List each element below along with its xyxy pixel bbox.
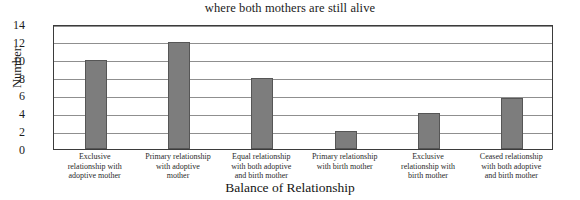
chart-figure: where both mothers are still alive Numbe…	[0, 0, 580, 200]
bar	[168, 42, 190, 149]
y-axis-tick-label: 10	[0, 56, 25, 66]
plot-area	[53, 25, 553, 150]
bar	[418, 113, 440, 149]
x-axis-tick-label-line: with birth mother	[304, 162, 385, 172]
y-axis-tick-label: 2	[0, 127, 25, 137]
x-axis-tick-label-line: with both adoptive	[471, 162, 552, 172]
x-axis-tick-label-line: with both adoptive	[221, 162, 302, 172]
bar	[85, 60, 107, 149]
x-axis-tick-label-line: Primary relationship	[304, 152, 385, 162]
y-axis-tick-label: 0	[0, 145, 25, 155]
x-axis-tick-label-line: relationship with	[54, 162, 135, 172]
x-axis-title: Balance of Relationship	[0, 180, 580, 196]
y-axis-tick-label: 8	[0, 74, 25, 84]
bar	[501, 98, 523, 149]
gridline	[54, 97, 552, 98]
gridline	[54, 115, 552, 116]
x-axis-tick-label-line: relationship with	[387, 162, 468, 172]
gridline	[54, 133, 552, 134]
gridline	[54, 43, 552, 44]
y-axis-tick-label: 4	[0, 109, 25, 119]
x-axis-tick-label-line: Equal relationship	[221, 152, 302, 162]
bar	[251, 78, 273, 149]
bar	[335, 131, 357, 149]
gridline	[54, 26, 552, 27]
gridline	[54, 79, 552, 80]
gridline	[54, 61, 552, 62]
x-axis-tick-label-line: Ceased relationship	[471, 152, 552, 162]
y-axis-tick-label: 6	[0, 91, 25, 101]
x-axis-tick-label-line: Exclusive	[387, 152, 468, 162]
x-axis-tick-label-line: with adoptive	[137, 162, 218, 172]
x-axis-tick-label-line: Exclusive	[54, 152, 135, 162]
y-axis-tick-label: 14	[0, 20, 25, 30]
y-axis-tick-label: 12	[0, 38, 25, 48]
chart-title: where both mothers are still alive	[0, 1, 580, 16]
x-axis-tick-label-line: Primary relationship	[137, 152, 218, 162]
